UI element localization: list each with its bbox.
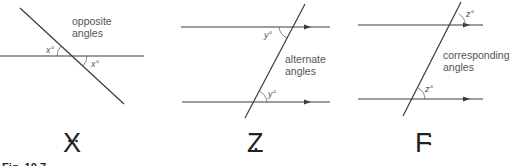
angle-dot: [429, 135, 432, 138]
angle-label-z-1: z°: [465, 9, 475, 19]
angle-label-x-2: x°: [90, 59, 100, 69]
angle-dot: [75, 140, 78, 143]
parallel-arrow-bottom-icon: [463, 97, 470, 102]
description-line-2: angles: [72, 27, 103, 39]
angle-arc-bottom: [418, 88, 425, 99]
parallel-arrow-bottom-icon: [304, 100, 311, 105]
description-line-2: angles: [443, 61, 474, 73]
angle-dot: [429, 143, 432, 146]
angle-diagrams-figure: x° x° opposite angles X y° y° alternate …: [0, 0, 510, 166]
parallel-arrow-top-icon: [463, 23, 470, 28]
diagram-f-corresponding-angles: z° z° corresponding angles F: [358, 2, 510, 158]
angle-arc-upper-left: [57, 46, 61, 56]
figure-caption: Fig. 10.7: [2, 161, 46, 166]
letter-f: F: [415, 128, 432, 158]
angle-label-y-2: y°: [267, 89, 277, 99]
angle-label-z-2: z°: [424, 84, 434, 94]
letter-z: Z: [247, 128, 264, 158]
angle-arc-lower-right: [83, 56, 87, 66]
description-line-1: opposite: [72, 15, 112, 27]
angle-arc-top: [279, 27, 287, 38]
letter-x: X: [63, 128, 81, 158]
angle-dot: [255, 148, 258, 151]
angle-dot: [68, 140, 71, 143]
description-line-1: corresponding: [443, 49, 510, 61]
angle-label-x-1: x°: [45, 45, 55, 55]
parallel-arrow-top-icon: [304, 25, 311, 30]
description-line-1: alternate: [285, 53, 326, 65]
angle-arc-bottom: [259, 91, 267, 102]
description-line-2: angles: [285, 65, 316, 77]
diagram-x-opposite-angles: x° x° opposite angles X: [0, 8, 144, 158]
angle-label-y-1: y°: [263, 30, 273, 40]
diagram-z-alternate-angles: y° y° alternate angles Z: [181, 4, 330, 158]
